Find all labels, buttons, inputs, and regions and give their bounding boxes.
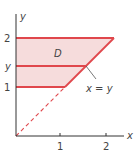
x-axis-label: x [126,130,133,141]
y-tick-label-1: 1 [4,82,10,93]
y-tick-label-2: 2 [4,33,10,44]
leader-line [86,66,96,79]
x-tick-label-2: 2 [103,141,109,152]
region-diagram: y x 2 y 1 1 2 D x = y [0,0,139,156]
line-label: x = y [85,83,114,94]
region-label: D [54,48,62,59]
dashed-line-x-eq-y [16,87,65,136]
x-tick-label-1: 1 [57,141,63,152]
region-d [16,38,114,87]
y-axis-label: y [19,11,27,22]
y-tick-label-y: y [4,61,12,72]
